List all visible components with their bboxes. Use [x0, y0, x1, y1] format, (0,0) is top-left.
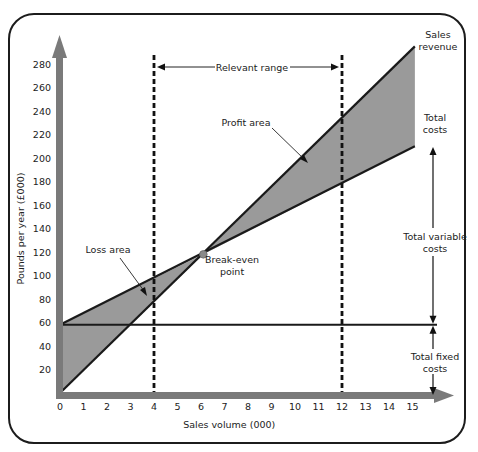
y-tick-label: 280 — [33, 59, 51, 70]
x-tick-label: 8 — [245, 401, 251, 412]
arrowhead-icon — [157, 64, 165, 71]
x-tick-label: 14 — [383, 401, 395, 412]
total-costs-label: Total — [423, 112, 446, 123]
total-variable-costs-label: Total variable — [402, 231, 467, 242]
arrowhead-icon — [331, 64, 339, 71]
y-tick-label: 100 — [33, 270, 51, 281]
profit-area-label: Profit area — [222, 117, 271, 128]
y-tick-label: 240 — [33, 106, 51, 117]
total-costs-line — [60, 146, 415, 325]
y-tick-label: 60 — [39, 317, 51, 328]
y-tick-label: 40 — [39, 341, 51, 352]
arrowhead-icon — [430, 326, 437, 334]
total-costs-label: costs — [423, 124, 448, 135]
y-axis-title: Pounds per year (£000) — [15, 173, 26, 285]
y-tick-label: 80 — [39, 294, 51, 305]
x-tick-label: 13 — [359, 401, 371, 412]
y-tick-label: 180 — [33, 176, 51, 187]
x-tick-label: 7 — [221, 401, 227, 412]
x-tick-label: 2 — [104, 401, 110, 412]
x-tick-label: 12 — [336, 401, 348, 412]
loss-area-label: Loss area — [85, 244, 130, 255]
total-fixed-costs-label: Total fixed — [410, 351, 459, 362]
x-tick-label: 6 — [198, 401, 204, 412]
y-axis-arrowhead — [52, 35, 67, 58]
y-tick-label: 260 — [33, 82, 51, 93]
x-axis — [56, 392, 436, 399]
arrowhead-icon — [430, 316, 437, 324]
x-tick-label: 3 — [127, 401, 133, 412]
x-axis-title: Sales volume (000) — [183, 419, 275, 430]
y-tick-label: 160 — [33, 200, 51, 211]
y-tick-label: 20 — [39, 364, 51, 375]
x-tick-label: 15 — [406, 401, 418, 412]
x-tick-label: 10 — [289, 401, 301, 412]
total-variable-costs-label: costs — [423, 243, 448, 254]
profit-area-pointer — [272, 128, 305, 160]
x-tick-label: 9 — [268, 401, 274, 412]
break-even-label: Break-even — [205, 254, 259, 265]
break-even-label: point — [220, 266, 245, 277]
total-fixed-costs-label: costs — [423, 363, 448, 374]
arrowhead-icon — [430, 147, 437, 155]
x-tick-label: 11 — [312, 401, 324, 412]
sales-revenue-line — [60, 46, 415, 393]
break-even-chart: 0123456789101112131415204060801001201401… — [0, 0, 478, 452]
y-axis — [56, 50, 63, 397]
sales-revenue-label: revenue — [419, 41, 458, 52]
y-tick-label: 120 — [33, 247, 51, 258]
x-tick-label: 4 — [151, 401, 157, 412]
y-tick-label: 200 — [33, 153, 51, 164]
x-tick-label: 0 — [57, 401, 63, 412]
y-tick-label: 140 — [33, 223, 51, 234]
x-axis-arrowhead — [434, 388, 454, 403]
x-tick-label: 1 — [80, 401, 86, 412]
sales-revenue-label: Sales — [425, 29, 450, 40]
x-tick-label: 5 — [174, 401, 180, 412]
loss-area-pointer — [120, 258, 144, 291]
y-tick-label: 220 — [33, 129, 51, 140]
relevant-range-label: Relevant range — [216, 62, 288, 73]
